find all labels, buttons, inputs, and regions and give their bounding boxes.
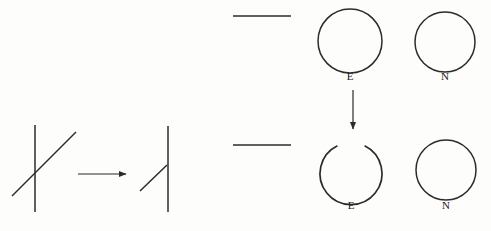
label-bottom-arc-e: E [339,200,363,211]
label-top-circle-e: E [338,71,362,82]
right-panel-group [233,9,476,205]
top-closed-circle-n [415,12,475,72]
left-panel-group [12,125,168,212]
crossing-lines-x-shape [12,125,76,212]
top-closed-circle-e [318,9,382,73]
bottom-closed-circle-n [416,140,476,200]
bottom-open-arc-e [320,146,382,205]
label-top-circle-n: N [433,71,457,82]
x-shape-diagonal-line [12,132,76,196]
tee-junction-shape [140,126,168,212]
label-bottom-circle-n: N [434,200,458,211]
figure-drawing [0,0,491,231]
figure-container: E N E N [0,0,491,231]
tee-shape-diagonal-line [140,165,167,191]
